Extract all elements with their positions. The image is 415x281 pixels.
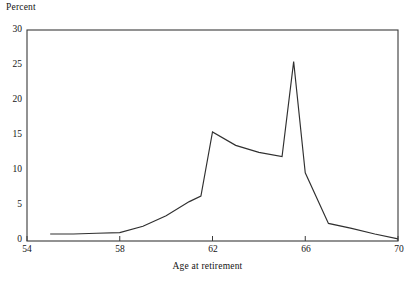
plot-border: [27, 30, 398, 241]
plot-frame: [27, 30, 398, 241]
retirement-age-distribution-chart: Percent Age at retirement 30 25 20 15 10…: [0, 0, 415, 281]
data-line-series-0: [50, 62, 398, 239]
x-axis-ticks: [27, 236, 398, 241]
plot-svg: [0, 0, 415, 281]
